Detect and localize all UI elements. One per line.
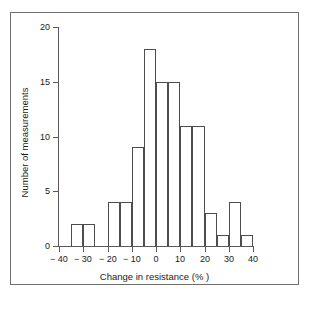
y-tick-label: 10	[26, 133, 50, 142]
histogram-bar	[132, 147, 144, 246]
histogram-bar	[144, 49, 156, 246]
y-tick-label: 20	[26, 23, 50, 32]
x-tick-mark	[108, 247, 109, 252]
x-tick-mark	[253, 247, 254, 252]
histogram-bar	[241, 235, 253, 246]
histogram-bar	[71, 224, 83, 246]
x-tick-mark	[132, 247, 133, 252]
histogram-bar	[156, 82, 168, 246]
histogram-bar	[168, 82, 180, 246]
x-tick-mark	[180, 247, 181, 252]
histogram-bar	[120, 202, 132, 246]
histogram-bar	[205, 213, 217, 246]
plot-area	[59, 27, 253, 246]
x-tick-mark	[83, 247, 84, 252]
histogram-bar	[217, 235, 229, 246]
y-tick-mark	[53, 246, 58, 247]
x-tick-label: 40	[238, 255, 268, 264]
x-tick-mark	[156, 247, 157, 252]
x-tick-mark	[205, 247, 206, 252]
histogram-bar	[83, 224, 95, 246]
y-axis-label: Number of measurements	[19, 58, 30, 228]
histogram-bar	[229, 202, 241, 246]
y-tick-label: 5	[26, 187, 50, 196]
y-tick-label: 0	[26, 242, 50, 251]
histogram-bar	[192, 126, 204, 246]
histogram-figure: 05101520 − 40− 30− 20− 10010203040 Chang…	[0, 0, 309, 310]
x-tick-mark	[59, 247, 60, 252]
y-tick-mark	[53, 191, 58, 192]
y-tick-mark	[53, 27, 58, 28]
histogram-bar	[180, 126, 192, 246]
y-tick-mark	[53, 82, 58, 83]
y-tick-label: 15	[26, 78, 50, 87]
histogram-bar	[108, 202, 120, 246]
y-tick-mark	[53, 137, 58, 138]
x-axis-label: Change in resistance (% )	[0, 271, 309, 282]
x-tick-mark	[229, 247, 230, 252]
